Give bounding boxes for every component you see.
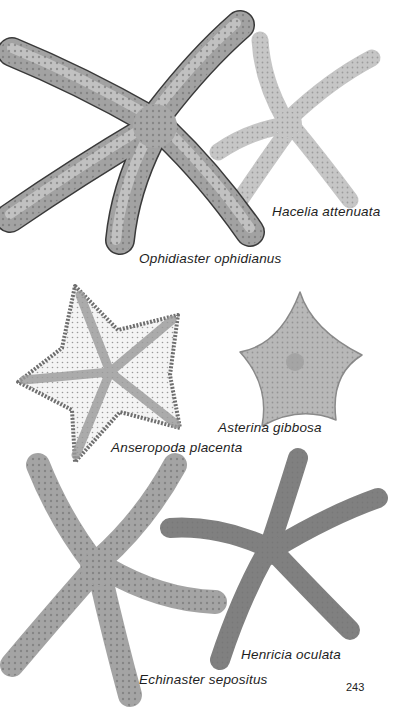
asterina-gibbosa-figure	[240, 292, 362, 426]
starfish-illustrations	[0, 0, 396, 717]
echinaster-sepositus-figure	[12, 465, 215, 695]
caption-echinaster-sepositus: Echinaster sepositus	[139, 672, 268, 687]
caption-henricia-oculata: Henricia oculata	[241, 647, 341, 662]
caption-anseropoda-placenta: Anseropoda placenta	[111, 440, 242, 455]
ophidiaster-ophidianus-figure	[10, 23, 250, 240]
page-number: 243	[346, 681, 364, 693]
henricia-oculata-figure	[170, 458, 378, 660]
caption-asterina-gibbosa: Asterina gibbosa	[218, 420, 322, 435]
illustration-plate: Hacelia attenuata Ophidiaster ophidianus…	[0, 0, 396, 717]
caption-ophidiaster-ophidianus: Ophidiaster ophidianus	[139, 251, 282, 266]
hacelia-attenuata-figure	[218, 40, 372, 200]
caption-hacelia-attenuata: Hacelia attenuata	[272, 204, 380, 219]
anseropoda-placenta-figure	[18, 286, 180, 462]
